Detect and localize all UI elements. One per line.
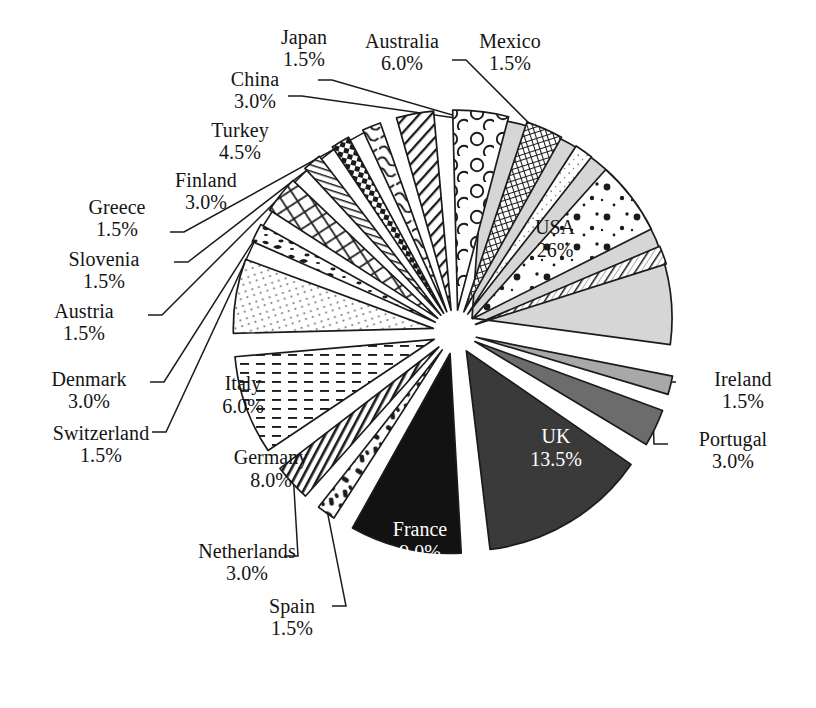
slice-label-greece: Greece 1.5% xyxy=(62,196,172,241)
slice-label-netherlands: Netherlands 3.0% xyxy=(164,540,330,585)
slice-label-china: China 3.0% xyxy=(204,68,306,113)
slice-label-turkey: Turkey 4.5% xyxy=(186,119,294,164)
slice-label-australia: Australia 6.0% xyxy=(338,30,466,75)
slice-label-austria: Austria 1.5% xyxy=(28,300,140,345)
pie-chart-svg xyxy=(0,0,816,708)
leader-line-spain xyxy=(327,511,346,606)
pie-chart-figure: Japan 1.5% Australia 6.0% Mexico 1.5% Ch… xyxy=(0,0,816,708)
slice-label-portugal: Portugal 3.0% xyxy=(672,428,794,473)
leader-line-portugal xyxy=(653,427,668,444)
slice-label-mexico: Mexico 1.5% xyxy=(455,30,565,75)
slice-label-ireland: Ireland 1.5% xyxy=(688,368,798,413)
slice-label-denmark: Denmark 3.0% xyxy=(26,368,152,413)
slice-label-spain: Spain 1.5% xyxy=(244,595,340,640)
slice-label-slovenia: Slovenia 1.5% xyxy=(42,248,166,293)
slice-label-switzerland: Switzerland 1.5% xyxy=(20,422,182,467)
